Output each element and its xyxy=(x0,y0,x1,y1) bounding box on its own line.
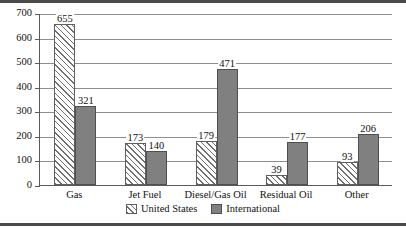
bar-group: 173140 xyxy=(125,14,167,185)
bar-international-residual-oil[interactable]: 177 xyxy=(287,142,308,185)
bar-value-label: 321 xyxy=(77,95,95,106)
gridline-0 xyxy=(40,186,392,187)
legend-label-international: International xyxy=(226,203,280,214)
y-axis-label-500: 500 xyxy=(0,57,32,67)
y-axis-label-700: 700 xyxy=(0,8,32,18)
legend-item-international[interactable]: International xyxy=(211,203,280,214)
bar-value-label: 655 xyxy=(56,13,74,24)
bar-value-label: 177 xyxy=(289,131,307,142)
y-axis-label-400: 400 xyxy=(0,82,32,92)
bar-group: 39177 xyxy=(266,14,308,185)
y-tick-0 xyxy=(35,186,40,187)
bar-united-states-other[interactable]: 93 xyxy=(337,162,358,185)
category-label-diesel-gas-oil: Diesel/Gas Oil xyxy=(184,188,246,201)
bar-value-label: 179 xyxy=(197,130,215,141)
bar-united-states-diesel-gas-oil[interactable]: 179 xyxy=(196,141,217,185)
bar-united-states-gas[interactable]: 655 xyxy=(54,24,75,185)
figure-bottom-rule xyxy=(0,223,406,226)
y-axis-label-100: 100 xyxy=(0,155,32,165)
category-label-jet-fuel: Jet Fuel xyxy=(128,188,161,201)
bar-group: 179471 xyxy=(196,14,238,185)
bar-international-other[interactable]: 206 xyxy=(358,134,379,185)
plot-area: 6553211731401794713917793206 xyxy=(39,14,392,186)
bar-value-label: 93 xyxy=(341,151,354,162)
bar-value-label: 39 xyxy=(270,164,283,175)
bar-international-diesel-gas-oil[interactable]: 471 xyxy=(217,69,238,185)
chart-legend: United States International xyxy=(0,203,406,214)
hatched-swatch-icon xyxy=(126,204,137,214)
gray-swatch-icon xyxy=(211,204,222,214)
category-label-gas: Gas xyxy=(66,188,82,201)
bar-group: 655321 xyxy=(54,14,96,185)
y-axis-label-600: 600 xyxy=(0,33,32,43)
category-label-residual-oil: Residual Oil xyxy=(260,188,313,201)
bar-group: 93206 xyxy=(337,14,379,185)
y-axis-label-200: 200 xyxy=(0,131,32,141)
y-axis-label-300: 300 xyxy=(0,106,32,116)
bar-united-states-residual-oil[interactable]: 39 xyxy=(266,175,287,185)
bar-united-states-jet-fuel[interactable]: 173 xyxy=(125,143,146,186)
legend-item-united-states[interactable]: United States xyxy=(126,203,197,214)
x-axis-category-labels: GasJet FuelDiesel/Gas OilResidual OilOth… xyxy=(39,188,392,204)
bar-value-label: 206 xyxy=(359,123,377,134)
bar-value-label: 140 xyxy=(148,140,166,151)
category-label-other: Other xyxy=(345,188,369,201)
bar-international-gas[interactable]: 321 xyxy=(75,106,96,185)
bar-value-label: 471 xyxy=(218,58,236,69)
legend-label-united-states: United States xyxy=(141,203,197,214)
bars-layer: 6553211731401794713917793206 xyxy=(40,14,392,185)
bar-international-jet-fuel[interactable]: 140 xyxy=(146,151,167,185)
bar-value-label: 173 xyxy=(127,132,145,143)
figure-top-rule xyxy=(0,0,406,3)
y-axis-label-0: 0 xyxy=(0,180,32,190)
chart-figure: 0100200300400500600700 65532117314017947… xyxy=(0,0,406,228)
